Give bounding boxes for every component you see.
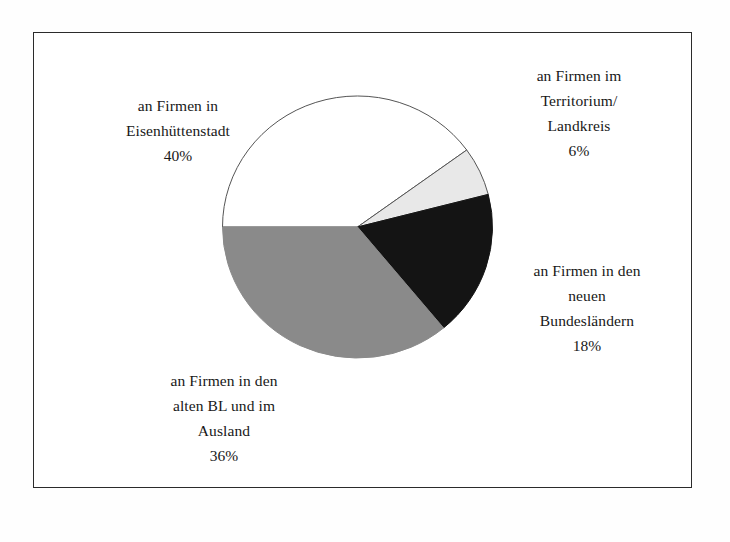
page-canvas: an Firmen in Eisenhüttenstadt 40% an Fir… bbox=[0, 0, 730, 542]
pie-label-ausland-percent: 36% bbox=[108, 443, 340, 468]
pie-label-territorium-percent: 6% bbox=[470, 138, 688, 163]
pie-label-eisenhuettenstadt: an Firmen in Eisenhüttenstadt 40% bbox=[62, 93, 294, 168]
pie-label-bundeslaender-line1: an Firmen in den bbox=[478, 258, 696, 283]
pie-label-territorium-landkreis: an Firmen im Territorium/ Landkreis 6% bbox=[470, 63, 688, 163]
pie-label-ausland-line3: Ausland bbox=[108, 418, 340, 443]
pie-label-eisenhuettenstadt-line1: an Firmen in bbox=[62, 93, 294, 118]
pie-label-bundeslaender-line2: neuen bbox=[478, 283, 696, 308]
pie-label-eisenhuettenstadt-percent: 40% bbox=[62, 143, 294, 168]
pie-label-neue-bundeslaender: an Firmen in den neuen Bundesländern 18% bbox=[478, 258, 696, 358]
pie-label-territorium-line3: Landkreis bbox=[470, 113, 688, 138]
pie-label-bundeslaender-line3: Bundesländern bbox=[478, 308, 696, 333]
pie-label-ausland-line1: an Firmen in den bbox=[108, 368, 340, 393]
pie-label-eisenhuettenstadt-line2: Eisenhüttenstadt bbox=[62, 118, 294, 143]
pie-label-territorium-line2: Territorium/ bbox=[470, 88, 688, 113]
pie-label-territorium-line1: an Firmen im bbox=[470, 63, 688, 88]
pie-label-alte-bl-ausland: an Firmen in den alten BL und im Ausland… bbox=[108, 368, 340, 468]
pie-label-bundeslaender-percent: 18% bbox=[478, 333, 696, 358]
pie-label-ausland-line2: alten BL und im bbox=[108, 393, 340, 418]
